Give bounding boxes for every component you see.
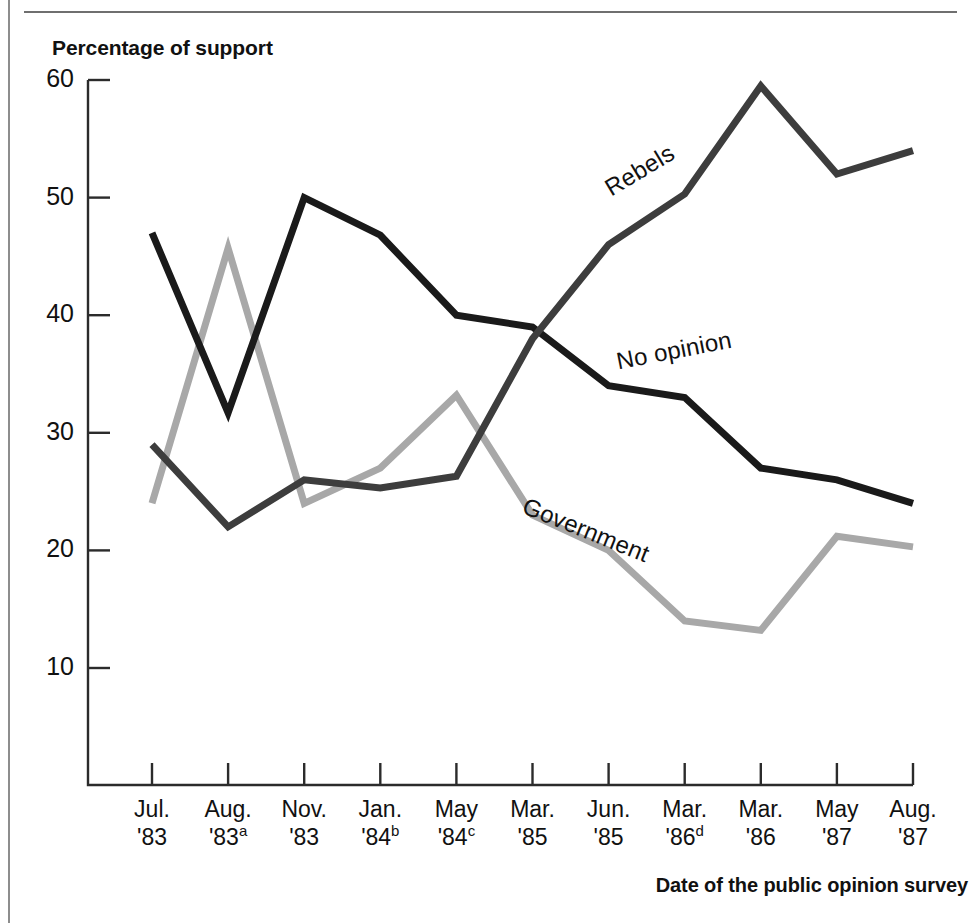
x-axis-title: Date of the public opinion survey [656,874,968,897]
x-tick-label: Aug.'87 [858,795,968,851]
y-tick-label: 10 [16,654,74,679]
chart-svg [0,0,980,923]
chart-axes [88,80,913,785]
y-tick-label: 60 [16,66,74,91]
y-tick-label: 40 [16,301,74,326]
series-line-no-opinion [152,198,913,504]
figure-page: Percentage of support 102030405060 Jul.'… [0,0,980,923]
y-tick-label: 30 [16,419,74,444]
chart-plot-area: 102030405060 Jul.'83Aug.'83aNov.'83Jan.'… [0,0,980,923]
chart-series-lines [152,86,913,630]
y-tick-label: 50 [16,184,74,209]
y-tick-label: 20 [16,536,74,561]
